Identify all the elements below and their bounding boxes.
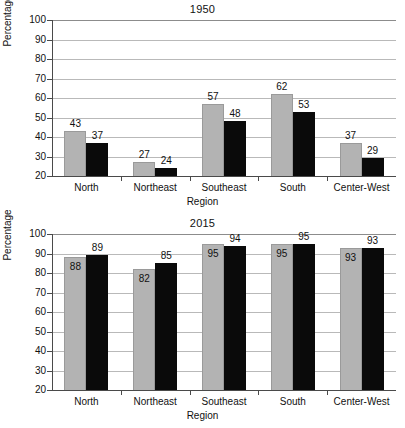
y-tick-mark-20 (47, 176, 52, 177)
bar-value-label: 88 (58, 262, 92, 272)
bar-1950-Southeast-s2 (224, 121, 246, 176)
gridline-80 (52, 59, 396, 60)
bar-value-label: 94 (218, 234, 252, 244)
bar-1950-South-s2 (293, 112, 315, 176)
x-axis-line-2015 (52, 390, 396, 391)
y-tick-mark-60 (47, 98, 52, 99)
bar-value-label: 48 (218, 109, 252, 119)
x-tick-mark-3 (258, 390, 259, 395)
bar-1950-Northeast-s2 (155, 168, 177, 176)
y-tick-label-100: 100 (22, 15, 46, 25)
x-tick-mark-1 (121, 390, 122, 395)
y-tick-label-70: 70 (22, 74, 46, 84)
y-tick-mark-40 (47, 351, 52, 352)
y-tick-mark-70 (47, 293, 52, 294)
x-tick-mark-3 (258, 176, 259, 181)
bar-value-label: 37 (80, 131, 114, 141)
bar-2015-North-s2 (86, 255, 108, 390)
bar-value-label: 95 (265, 249, 299, 259)
y-tick-mark-60 (47, 312, 52, 313)
y-tick-mark-100 (47, 20, 52, 21)
y-tick-mark-80 (47, 59, 52, 60)
y-tick-mark-70 (47, 79, 52, 80)
figure-two-panel-bar-charts: 1950 Percentage Region 10090807060504030… (0, 0, 405, 428)
y-tick-label-40: 40 (22, 346, 46, 356)
y-tick-mark-90 (47, 40, 52, 41)
y-tick-label-60: 60 (22, 307, 46, 317)
x-tick-mark-2 (190, 176, 191, 181)
bar-2015-Southeast-s2 (224, 246, 246, 390)
bar-value-label: 57 (196, 92, 230, 102)
x-axis-line-1950 (52, 176, 396, 177)
y-tick-label-90: 90 (22, 35, 46, 45)
y-tick-mark-90 (47, 254, 52, 255)
x-tick-mark-2 (190, 390, 191, 395)
bar-value-label: 43 (58, 119, 92, 129)
bar-value-label: 53 (287, 100, 321, 110)
y-tick-label-80: 80 (22, 54, 46, 64)
bar-2015-South-s1 (271, 244, 293, 390)
y-axis-caption-1950: Percentage (2, 0, 16, 66)
y-tick-mark-20 (47, 390, 52, 391)
x-category-label-center-west: Center-West (321, 182, 402, 193)
y-axis-caption-2015: Percentage (2, 190, 16, 280)
bar-value-label: 85 (149, 251, 183, 261)
y-tick-label-50: 50 (22, 327, 46, 337)
y-tick-mark-50 (47, 118, 52, 119)
bar-1950-North-s2 (86, 143, 108, 176)
y-tick-mark-40 (47, 137, 52, 138)
y-tick-label-20: 20 (22, 385, 46, 395)
x-tick-mark-4 (327, 390, 328, 395)
chart-panel-2015: 2015 Percentage Region 10090807060504030… (0, 214, 405, 428)
x-axis-caption-2015: Region (0, 410, 405, 421)
gridline-70 (52, 79, 396, 80)
gridline-90 (52, 40, 396, 41)
y-tick-label-50: 50 (22, 113, 46, 123)
bar-value-label: 93 (334, 253, 368, 263)
bar-value-label: 82 (127, 274, 161, 284)
bar-value-label: 95 (196, 249, 230, 259)
y-tick-label-100: 100 (22, 229, 46, 239)
bar-2015-Southeast-s1 (202, 244, 224, 390)
gridline-100 (52, 20, 396, 21)
bar-1950-Center-West-s2 (362, 158, 384, 176)
x-category-label-center-west: Center-West (321, 396, 402, 407)
y-tick-label-60: 60 (22, 93, 46, 103)
y-tick-mark-100 (47, 234, 52, 235)
x-tick-mark-1 (121, 176, 122, 181)
chart-panel-1950: 1950 Percentage Region 10090807060504030… (0, 0, 405, 214)
y-axis-line-2015 (52, 234, 53, 391)
bar-value-label: 24 (149, 156, 183, 166)
x-tick-mark-4 (327, 176, 328, 181)
chart-title-1950: 1950 (0, 3, 405, 15)
bar-value-label: 29 (356, 146, 390, 156)
y-tick-label-70: 70 (22, 288, 46, 298)
y-tick-label-90: 90 (22, 249, 46, 259)
bar-2015-Center-West-s2 (362, 248, 384, 390)
bar-2015-Center-West-s1 (340, 248, 362, 390)
y-tick-mark-50 (47, 332, 52, 333)
y-tick-label-30: 30 (22, 152, 46, 162)
bar-2015-South-s2 (293, 244, 315, 390)
y-tick-mark-80 (47, 273, 52, 274)
y-tick-label-20: 20 (22, 171, 46, 181)
bar-2015-Northeast-s1 (133, 269, 155, 390)
y-tick-mark-30 (47, 157, 52, 158)
y-tick-label-80: 80 (22, 268, 46, 278)
chart-title-2015: 2015 (0, 217, 405, 229)
bar-value-label: 89 (80, 243, 114, 253)
bar-value-label: 37 (334, 131, 368, 141)
y-tick-mark-30 (47, 371, 52, 372)
y-tick-label-30: 30 (22, 366, 46, 376)
bar-2015-North-s1 (64, 257, 86, 390)
bar-value-label: 93 (356, 236, 390, 246)
x-axis-caption-1950: Region (0, 196, 405, 207)
bar-value-label: 95 (287, 232, 321, 242)
y-axis-line-1950 (52, 20, 53, 177)
bar-value-label: 62 (265, 82, 299, 92)
y-tick-label-40: 40 (22, 132, 46, 142)
